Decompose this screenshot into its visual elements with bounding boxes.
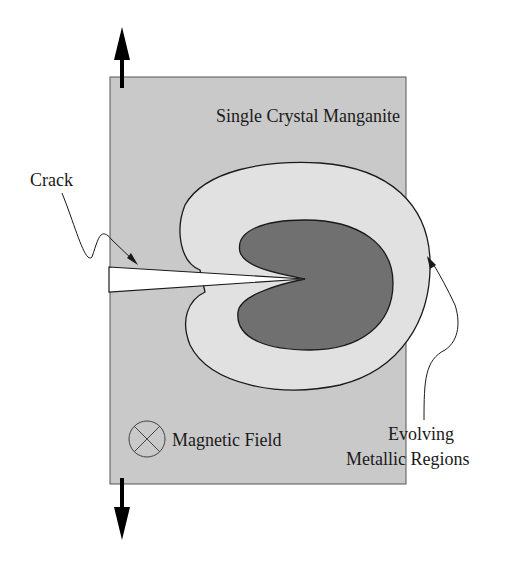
crack-label: Crack: [30, 170, 73, 190]
down-arrow-icon: [114, 478, 130, 540]
evolving-label-line2: Metallic Regions: [346, 449, 469, 469]
evolving-label-line1: Evolving: [388, 424, 454, 444]
diagram-title: Single Crystal Manganite: [216, 106, 400, 126]
magnetic-field-label: Magnetic Field: [172, 430, 281, 450]
diagram-canvas: Single Crystal Manganite Crack Magnetic …: [0, 0, 530, 568]
